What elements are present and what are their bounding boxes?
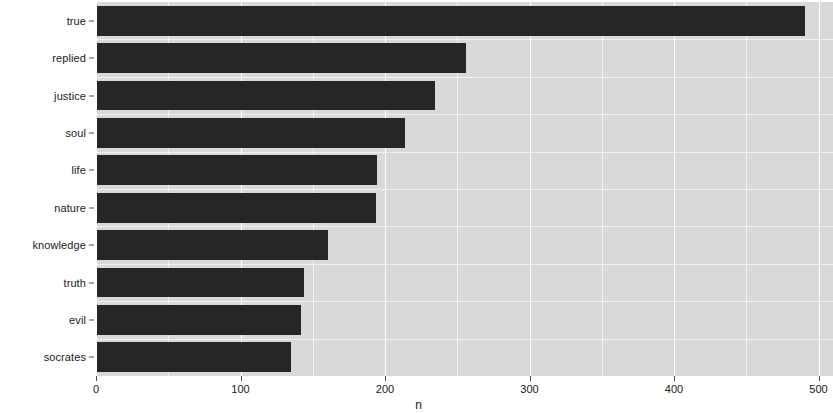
- y-tick-mark: [89, 357, 94, 358]
- y-tick-label-evil: evil: [69, 314, 86, 326]
- bar-evil: [97, 305, 301, 335]
- gridline-horizontal: [96, 189, 833, 190]
- y-tick-label-life: life: [72, 164, 86, 176]
- gridline-horizontal: [96, 301, 833, 302]
- x-tick-label-100: 100: [231, 383, 249, 395]
- bar-life: [97, 155, 377, 185]
- y-tick-label-socrates: socrates: [44, 351, 86, 363]
- y-tick-mark: [89, 170, 94, 171]
- gridline-horizontal: [96, 152, 833, 153]
- bar-soul: [97, 118, 405, 148]
- y-tick-label-knowledge: knowledge: [33, 239, 87, 251]
- x-tick-label-400: 400: [665, 383, 683, 395]
- bar-knowledge: [97, 230, 328, 260]
- x-tick-label-200: 200: [376, 383, 394, 395]
- x-tick-mark: [385, 376, 386, 381]
- x-axis-title-text: n: [411, 399, 422, 412]
- x-tick-mark: [530, 376, 531, 381]
- y-tick-mark: [89, 95, 94, 96]
- x-tick-label-0: 0: [93, 383, 99, 395]
- y-tick-mark: [89, 319, 94, 320]
- x-axis-title: n: [0, 399, 833, 413]
- bar-truth: [97, 268, 304, 298]
- gridline-horizontal: [96, 226, 833, 227]
- y-tick-mark: [89, 207, 94, 208]
- bar-socrates: [97, 342, 291, 372]
- y-tick-mark: [89, 132, 94, 133]
- y-tick-mark: [89, 58, 94, 59]
- gridline-horizontal: [96, 77, 833, 78]
- y-axis: truerepliedjusticesoullifenatureknowledg…: [0, 2, 96, 376]
- y-tick-label-nature: nature: [54, 202, 86, 214]
- x-tick-mark: [241, 376, 242, 381]
- y-tick-label-justice: justice: [54, 90, 86, 102]
- gridline-horizontal: [96, 339, 833, 340]
- x-tick-label-300: 300: [520, 383, 538, 395]
- x-tick-mark: [819, 376, 820, 381]
- y-tick-label-truth: truth: [63, 277, 86, 289]
- y-tick-label-replied: replied: [52, 52, 86, 64]
- bar-justice: [97, 81, 435, 111]
- bar-nature: [97, 193, 376, 223]
- gridline-horizontal: [96, 114, 833, 115]
- x-tick-mark: [96, 376, 97, 381]
- y-tick-label-true: true: [67, 15, 86, 27]
- y-tick-mark: [89, 20, 94, 21]
- x-tick-mark: [674, 376, 675, 381]
- bar-true: [97, 6, 805, 36]
- bar-chart: truerepliedjusticesoullifenatureknowledg…: [0, 0, 833, 413]
- y-tick-mark: [89, 282, 94, 283]
- bar-replied: [97, 43, 466, 73]
- gridline-horizontal: [96, 264, 833, 265]
- y-tick-mark: [89, 245, 94, 246]
- gridline-horizontal: [96, 39, 833, 40]
- plot-panel: [96, 2, 833, 376]
- x-tick-label-500: 500: [809, 383, 827, 395]
- y-tick-label-soul: soul: [65, 127, 86, 139]
- x-axis: n 0100200300400500: [0, 376, 833, 413]
